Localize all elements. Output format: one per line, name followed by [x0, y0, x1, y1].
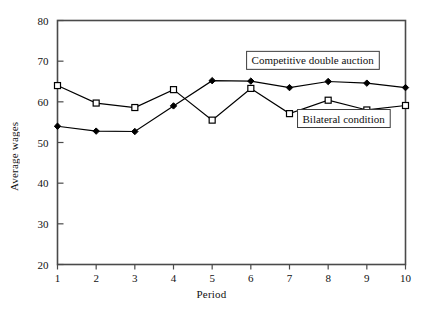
x-axis-tick-label: 3 — [132, 272, 138, 284]
y-axis-tick-label: 60 — [38, 96, 50, 108]
data-point-diamond — [402, 84, 408, 90]
data-point-diamond — [364, 80, 370, 86]
data-point-diamond — [325, 78, 331, 84]
x-axis-tick-label: 1 — [55, 272, 61, 284]
y-axis-title: Average wages — [6, 96, 22, 216]
data-point-square — [171, 87, 177, 93]
x-axis-tick-label: 7 — [287, 272, 293, 284]
data-point-diamond — [209, 77, 215, 83]
data-point-diamond — [132, 128, 138, 134]
data-point-square — [248, 85, 254, 91]
chart-figure: 2030405060708012345678910Competitive dou… — [0, 0, 423, 316]
data-point-square — [55, 83, 61, 89]
line-chart-canvas: 2030405060708012345678910Competitive dou… — [0, 0, 423, 316]
data-point-diamond — [170, 103, 176, 109]
x-axis-tick-label: 5 — [209, 272, 215, 284]
x-axis-tick-label: 8 — [325, 272, 331, 284]
y-axis-tick-label: 30 — [38, 218, 50, 230]
data-point-square — [287, 111, 293, 117]
data-point-diamond — [93, 128, 99, 134]
data-point-square — [403, 102, 409, 108]
x-axis-tick-label: 6 — [248, 272, 254, 284]
y-axis-tick-label: 40 — [38, 177, 50, 189]
y-axis-tick-label: 80 — [38, 15, 50, 27]
data-point-diamond — [286, 84, 292, 90]
x-axis-tick-label: 10 — [400, 272, 412, 284]
data-point-square — [209, 117, 215, 123]
data-point-diamond — [54, 123, 60, 129]
x-axis-title: Period — [0, 288, 423, 300]
y-axis-tick-label: 50 — [38, 137, 50, 149]
annotation-label: Bilateral condition — [303, 113, 386, 125]
data-point-square — [132, 105, 138, 111]
annotation-label: Competitive double auction — [252, 54, 375, 66]
data-point-square — [325, 97, 331, 103]
y-axis-tick-label: 70 — [38, 55, 50, 67]
x-axis-tick-label: 2 — [93, 272, 99, 284]
data-point-diamond — [248, 78, 254, 84]
x-axis-tick-label: 4 — [171, 272, 177, 284]
x-axis-tick-label: 9 — [364, 272, 370, 284]
y-axis-tick-label: 20 — [38, 259, 50, 271]
data-point-square — [93, 100, 99, 106]
